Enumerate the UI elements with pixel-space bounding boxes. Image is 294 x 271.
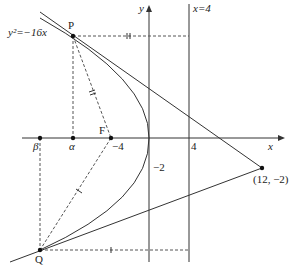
label-alpha: α: [69, 140, 75, 152]
label-external-point: (12, −2): [253, 173, 289, 186]
parabola-diagram: y²=−16x P Q F α β −4 4 −2 (12, −2) x y x…: [0, 0, 294, 271]
x-axis-arrow-icon: [278, 135, 285, 141]
point-external: [260, 166, 264, 170]
label-directrix-x: 4: [191, 140, 197, 152]
label-f: F: [99, 124, 105, 136]
label-directrix: x=4: [192, 2, 211, 14]
label-y-minus2: −2: [153, 161, 165, 173]
curve-label: y²=−16x: [7, 26, 47, 38]
tick-mark: [76, 189, 82, 193]
point-q: [38, 248, 42, 252]
label-beta: β: [32, 140, 39, 152]
label-q: Q: [35, 253, 43, 265]
label-p: P: [68, 19, 74, 31]
label-focus-x: −4: [112, 140, 124, 152]
label-x-axis: x: [267, 140, 273, 152]
tangent-line-q: [10, 168, 262, 262]
tick-mark: [89, 90, 95, 92]
parabola-curve: [40, 18, 149, 250]
focus-to-q-dashed: [40, 138, 111, 250]
point-p: [71, 34, 75, 38]
y-axis-arrow-icon: [146, 5, 152, 12]
label-y-axis: y: [138, 2, 144, 14]
